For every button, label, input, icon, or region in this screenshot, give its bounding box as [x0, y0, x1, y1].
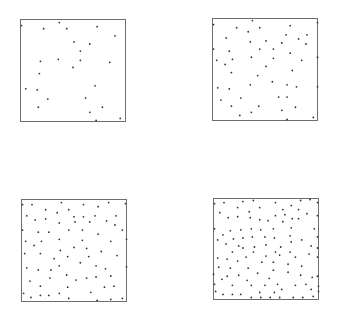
- data-point: [23, 292, 25, 294]
- data-point: [34, 219, 36, 221]
- data-point: [287, 263, 289, 265]
- data-point: [251, 236, 253, 238]
- data-point: [56, 212, 58, 214]
- panel-bottom-left: [22, 200, 128, 302]
- data-point: [232, 294, 234, 296]
- data-point: [317, 236, 319, 238]
- data-point: [274, 292, 276, 294]
- data-point: [291, 218, 293, 220]
- data-point: [59, 250, 61, 252]
- data-point: [317, 247, 319, 249]
- data-point: [290, 241, 292, 243]
- data-point: [48, 231, 50, 233]
- data-point: [53, 258, 55, 260]
- data-point: [278, 96, 280, 98]
- data-point: [67, 286, 69, 288]
- data-point: [220, 99, 222, 101]
- data-point: [224, 64, 226, 66]
- data-point: [238, 245, 240, 247]
- data-point: [267, 220, 269, 222]
- data-point: [246, 279, 248, 281]
- data-point: [37, 106, 39, 108]
- data-point: [58, 222, 60, 224]
- data-point: [252, 20, 254, 22]
- data-point: [225, 243, 227, 245]
- panel-bottom-right: [213, 199, 320, 300]
- data-point: [317, 256, 319, 258]
- data-point: [47, 98, 49, 100]
- data-point: [271, 81, 273, 83]
- data-point: [228, 88, 230, 90]
- data-point: [25, 240, 27, 242]
- data-point: [121, 298, 123, 300]
- data-point: [295, 256, 297, 258]
- panel-top-right: [213, 19, 319, 121]
- data-point: [250, 284, 252, 286]
- data-point: [259, 207, 261, 209]
- point-pattern-figure: [0, 0, 337, 312]
- data-point: [282, 221, 284, 223]
- data-point: [236, 27, 238, 29]
- data-point: [228, 50, 230, 52]
- data-point: [48, 294, 50, 296]
- data-point: [213, 273, 215, 275]
- data-point: [89, 221, 91, 223]
- data-point: [250, 111, 252, 113]
- data-point: [222, 234, 224, 236]
- data-point: [96, 26, 98, 28]
- data-point: [242, 201, 244, 203]
- data-point: [249, 217, 251, 219]
- data-point: [273, 48, 275, 50]
- data-point: [114, 224, 116, 226]
- data-point: [68, 298, 70, 300]
- data-point: [272, 228, 274, 230]
- data-point: [214, 283, 216, 285]
- data-point: [300, 200, 302, 202]
- data-point: [275, 251, 277, 253]
- data-point: [275, 202, 277, 204]
- data-point: [90, 291, 92, 293]
- data-point: [301, 265, 303, 267]
- data-point: [94, 85, 96, 87]
- data-point: [218, 266, 220, 268]
- data-point: [257, 75, 259, 77]
- data-point: [102, 106, 104, 108]
- data-point: [261, 261, 263, 263]
- data-point: [95, 120, 97, 122]
- data-point: [106, 220, 108, 222]
- data-point: [72, 67, 74, 69]
- data-point: [22, 229, 24, 231]
- data-point: [21, 25, 23, 27]
- data-point: [104, 286, 106, 288]
- data-point: [119, 118, 121, 120]
- data-point: [291, 70, 293, 72]
- data-point: [31, 204, 33, 206]
- data-point: [41, 240, 43, 242]
- data-point: [229, 230, 231, 232]
- data-point: [36, 89, 38, 91]
- data-point: [296, 86, 298, 88]
- data-point: [242, 237, 244, 239]
- data-point: [68, 209, 70, 211]
- data-point: [317, 56, 319, 58]
- data-point: [50, 269, 52, 271]
- data-point: [298, 38, 300, 40]
- data-point: [281, 109, 283, 111]
- data-point: [223, 202, 225, 204]
- data-point: [232, 284, 234, 286]
- data-point: [49, 277, 51, 279]
- data-point: [250, 228, 252, 230]
- data-point: [66, 274, 68, 276]
- data-point: [216, 59, 218, 61]
- data-point: [89, 43, 91, 45]
- data-point: [214, 203, 216, 205]
- data-point: [231, 72, 233, 74]
- data-point: [264, 236, 266, 238]
- panel-frame: [213, 19, 318, 121]
- data-point: [272, 261, 274, 263]
- data-point: [113, 285, 115, 287]
- panel-top-left: [21, 20, 126, 122]
- data-point: [221, 278, 223, 280]
- data-point: [73, 216, 75, 218]
- data-point: [259, 292, 261, 294]
